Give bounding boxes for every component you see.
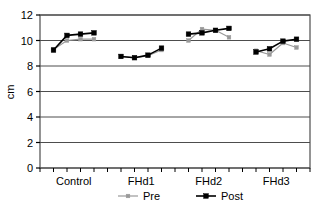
data-point-post-fhd2-2 (213, 28, 218, 33)
legend-marker-post (204, 194, 209, 199)
legend-label-post: Post (221, 190, 243, 202)
legend-label-pre: Pre (143, 190, 160, 202)
data-point-pre-fhd2-3 (227, 36, 231, 40)
data-point-pre-fhd3-1 (268, 53, 272, 57)
data-point-pre-control-1 (65, 39, 69, 43)
line-chart: 024681012 ControlFHd1FHd2FHd3 cm PrePost (0, 0, 321, 214)
x-axis-category-labels: ControlFHd1FHd2FHd3 (56, 175, 290, 187)
data-point-post-control-2 (78, 32, 83, 37)
data-point-post-fhd1-3 (159, 46, 164, 51)
data-point-pre-fhd3-3 (295, 46, 299, 50)
y-axis: 024681012 (21, 9, 40, 174)
x-category-label-fhd1: FHd1 (128, 175, 155, 187)
data-point-post-fhd2-3 (227, 26, 232, 31)
y-axis-title: cm (4, 85, 16, 100)
y-tick-label-6: 6 (27, 86, 33, 98)
data-point-post-control-0 (51, 48, 56, 53)
data-point-post-fhd1-0 (119, 54, 124, 59)
data-point-post-control-1 (65, 33, 70, 38)
data-point-pre-fhd2-1 (200, 27, 204, 31)
y-tick-label-8: 8 (27, 60, 33, 72)
data-point-post-fhd1-1 (132, 55, 137, 60)
y-tick-label-0: 0 (27, 162, 33, 174)
chart-legend: PrePost (118, 190, 243, 202)
x-category-label-fhd2: FHd2 (195, 175, 222, 187)
data-point-pre-fhd2-0 (187, 39, 191, 43)
y-tick-label-2: 2 (27, 137, 33, 149)
y-tick-label-10: 10 (21, 35, 33, 47)
chart-container: 024681012 ControlFHd1FHd2FHd3 cm PrePost (0, 0, 321, 214)
data-point-post-fhd3-0 (254, 50, 259, 55)
data-point-pre-control-3 (92, 37, 96, 41)
y-tick-label-12: 12 (21, 9, 33, 21)
data-point-post-fhd1-2 (146, 53, 151, 58)
data-point-post-fhd3-2 (281, 39, 286, 44)
data-point-post-fhd2-1 (200, 31, 205, 36)
data-point-pre-control-2 (79, 37, 83, 41)
y-tick-label-4: 4 (27, 111, 33, 123)
data-point-post-control-3 (92, 31, 97, 36)
data-point-post-fhd2-0 (186, 32, 191, 37)
legend-marker-pre (126, 194, 130, 198)
x-axis (40, 168, 310, 172)
x-category-label-control: Control (56, 175, 91, 187)
x-category-label-fhd3: FHd3 (263, 175, 290, 187)
data-point-post-fhd3-1 (267, 46, 272, 51)
data-point-post-fhd3-3 (294, 37, 299, 42)
